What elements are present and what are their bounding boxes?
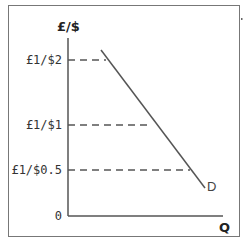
tick-label-05: £1/$0.5	[11, 163, 62, 177]
y-axis-label: £/$	[57, 19, 80, 34]
origin-label: 0	[55, 209, 62, 223]
demand-curve	[101, 50, 205, 188]
demand-chart: £/$ £1/$2 £1/$1 £1/$0.5 0 D Q	[0, 0, 248, 244]
curve-label-d: D	[207, 179, 216, 194]
x-axis-label: Q	[219, 220, 230, 235]
tick-label-2: £1/$2	[26, 53, 62, 67]
stray-mark	[241, 18, 243, 20]
tick-label-1: £1/$1	[26, 118, 62, 132]
